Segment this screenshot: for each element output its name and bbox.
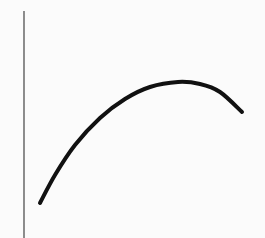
- chart-plot: [0, 0, 265, 238]
- data-curve: [40, 82, 242, 203]
